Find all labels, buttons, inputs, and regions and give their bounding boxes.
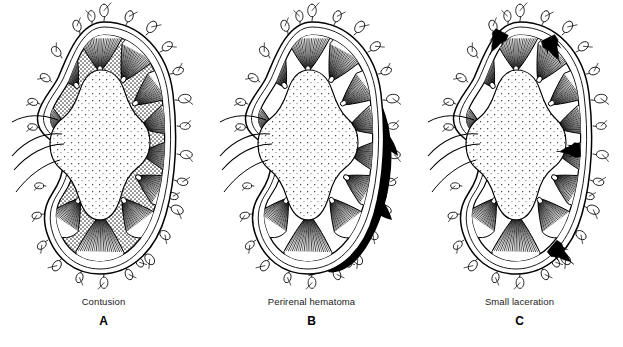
- caption-a: Contusion A: [0, 296, 207, 330]
- panel-perirenal-hematoma: Perirenal hematoma B: [208, 0, 415, 347]
- caption-letter-c: C: [416, 312, 623, 330]
- caption-b: Perirenal hematoma B: [208, 296, 415, 330]
- kidney-illustration-b: [208, 8, 415, 288]
- kidney-illustration-c: [416, 8, 623, 288]
- caption-c: Small laceration C: [416, 296, 623, 330]
- caption-letter-b: B: [208, 312, 415, 330]
- kidney-illustration-a: [0, 8, 207, 288]
- panel-small-laceration: Small laceration C: [416, 0, 623, 347]
- caption-title-a: Contusion: [0, 296, 207, 308]
- caption-title-c: Small laceration: [416, 296, 623, 308]
- panel-contusion: Contusion A: [0, 0, 207, 347]
- caption-letter-a: A: [0, 312, 207, 330]
- caption-title-b: Perirenal hematoma: [208, 296, 415, 308]
- renal-injury-figure: Contusion A Perirenal hematoma B Small l…: [0, 0, 623, 347]
